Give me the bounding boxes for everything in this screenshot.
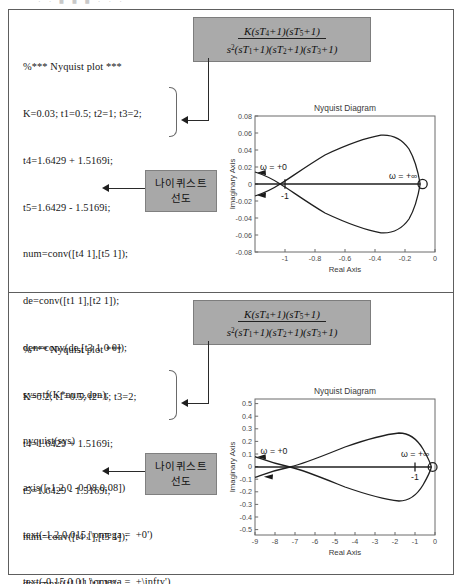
nyquist-plot-bottom: Nyquist Diagram 0.5 — [221, 381, 449, 559]
x-tick-label: -7 — [292, 537, 298, 546]
figure-frame: %*** Nyquist plot *** K=0.03; t1=0.5; t2… — [8, 9, 454, 575]
y-tick-label: -0.08 — [236, 248, 252, 257]
callout-connector-line — [109, 188, 145, 189]
x-tick-label: -1 — [412, 537, 418, 546]
x-tick-label: -6 — [312, 537, 318, 546]
transfer-function-box: K(sT4+1)(sT5+1) s2(sT1+1)(sT2+1)(sT3+1) — [193, 300, 371, 345]
x-tick-label: -1 — [282, 254, 288, 263]
code-group-brace — [169, 370, 177, 420]
code-line: t4=1.6429 + 1.5169i; — [23, 436, 152, 452]
annotation-omega-zero: ω = +0 — [260, 162, 287, 172]
formula-numerator: K(sT4+1)(sT5+1) — [238, 307, 326, 322]
y-tick-label: -0.3 — [240, 500, 252, 509]
code-line: num=conv([t4 1],[t5 1]); — [23, 529, 152, 545]
formula-connector-horizontal — [188, 120, 209, 121]
callout-connector-arrowhead — [102, 184, 109, 192]
x-tick-label: -0.2 — [399, 254, 411, 263]
x-tick-label: -2 — [392, 537, 398, 546]
callout-connector-arrowhead — [102, 467, 109, 475]
panel-bottom: %*** Nyquist plot *** K=0.2; t1=0.5; t2=… — [9, 293, 453, 574]
formula-numerator: K(sT4+1)(sT5+1) — [238, 24, 326, 39]
y-tick-label: -0.5 — [240, 525, 252, 534]
x-tick-label: -0.4 — [369, 254, 381, 263]
transfer-function-box: K(sT4+1)(sT5+1) s2(sT1+1)(sT2+1)(sT3+1) — [193, 17, 371, 62]
x-tick-label: -4 — [352, 537, 358, 546]
x-axis-label: Real Axis — [329, 265, 362, 274]
transfer-function-fraction: K(sT4+1)(sT5+1) s2(sT1+1)(sT2+1)(sT3+1) — [223, 304, 342, 340]
code-block-bottom: %*** Nyquist plot *** K=0.2; t1=0.5; t2=… — [23, 311, 152, 584]
nyquist-plot-top: Nyquist Diagram 0.08 — [221, 98, 449, 276]
page-root: · · ■ ■ ■ · · · %*** Nyquist plot *** K=… — [0, 0, 462, 584]
nyquist-callout-box-top: 나이퀴스트 선도 — [145, 170, 217, 212]
y-tick-label: -0.02 — [236, 197, 252, 206]
y-tick-label: 0.4 — [242, 412, 252, 421]
y-axis-label: Imaginary Axis — [228, 442, 237, 493]
y-tick-label: 0.04 — [238, 146, 252, 155]
annotation-minus-one: -1 — [411, 472, 419, 482]
code-group-brace — [169, 87, 177, 137]
chart-title: Nyquist Diagram — [314, 386, 376, 396]
code-line: t4=1.6429 + 1.5169i; — [23, 153, 170, 169]
curve-negative-omega-top — [255, 184, 420, 233]
y-tick-label: 0.08 — [238, 112, 252, 121]
x-axis-ticks: -9 -8 -7 -6 -5 -4 -3 -2 -1 0 — [252, 532, 437, 546]
annotation-omega-infinity: ω = +∞ — [389, 171, 417, 181]
top-cut-text-strip: · · ■ ■ ■ · · · — [0, 0, 462, 9]
x-axis-ticks: -1 -0.8 -0.6 -0.4 -0.2 0 — [282, 249, 437, 263]
x-axis-label: Real Axis — [329, 548, 362, 557]
y-tick-label: -0.2 — [240, 487, 252, 496]
annotation-minus-one: -1 — [281, 191, 289, 201]
y-tick-label: -0.06 — [236, 231, 252, 240]
y-tick-label: 0.3 — [242, 424, 252, 433]
y-tick-label: 0.1 — [242, 450, 252, 459]
y-tick-label: -0.1 — [240, 475, 252, 484]
x-tick-label: -9 — [252, 537, 258, 546]
nyquist-callout-box-bottom: 나이퀴스트 선도 — [145, 453, 217, 495]
y-tick-label: 0.06 — [238, 129, 252, 138]
x-tick-label: -5 — [332, 537, 338, 546]
x-tick-label: -3 — [372, 537, 378, 546]
code-line: de=conv([t1 1],[t2 1]); — [23, 576, 152, 584]
y-tick-label: 0.2 — [242, 437, 252, 446]
formula-connector-horizontal — [188, 403, 209, 404]
code-line: K=0.03; t1=0.5; t2=1; t3=2; — [23, 106, 170, 122]
code-line: num=conv([t4 1],[t5 1]); — [23, 246, 170, 262]
chart-title: Nyquist Diagram — [314, 103, 376, 113]
code-line: K=0.2; t1=0.5; t2=1; t3=2; — [23, 389, 152, 405]
curve-negative-omega-bottom — [255, 467, 431, 501]
formula-connector-arrowhead — [181, 116, 188, 124]
y-tick-label: 0 — [248, 180, 252, 189]
callout-line-1: 나이퀴스트 — [155, 459, 207, 474]
transfer-function-fraction: K(sT4+1)(sT5+1) s2(sT1+1)(sT2+1)(sT3+1) — [223, 21, 342, 57]
callout-line-2: 선도 — [171, 191, 192, 206]
y-axis-label: Imaginary Axis — [228, 159, 237, 210]
y-tick-label: -0.4 — [240, 513, 252, 522]
annotation-omega-infinity: ω = +∞ — [401, 449, 429, 459]
arrow-lower-left-bottom — [264, 474, 273, 479]
callout-line-2: 선도 — [171, 474, 192, 489]
top-cut-text: · · ■ ■ ■ · · · — [38, 0, 462, 6]
formula-connector-vertical — [208, 58, 209, 120]
callout-line-1: 나이퀴스트 — [155, 176, 207, 191]
formula-connector-vertical — [208, 341, 209, 403]
callout-connector-line — [109, 471, 145, 472]
nyquist-plot-top-svg: Nyquist Diagram 0.08 — [221, 98, 449, 276]
y-tick-label: 0.02 — [238, 163, 252, 172]
x-tick-label: -8 — [272, 537, 278, 546]
annotation-omega-zero: ω = +0 — [261, 446, 288, 456]
panel-top: %*** Nyquist plot *** K=0.03; t1=0.5; t2… — [9, 10, 453, 293]
formula-denominator: s2(sT1+1)(sT2+1)(sT3+1) — [223, 324, 342, 338]
x-tick-label: -0.8 — [309, 254, 321, 263]
x-tick-label: 0 — [433, 537, 437, 546]
y-tick-label: -0.04 — [236, 214, 252, 223]
code-line: %*** Nyquist plot *** — [23, 342, 152, 358]
formula-denominator: s2(sT1+1)(sT2+1)(sT3+1) — [223, 41, 342, 55]
code-line: %*** Nyquist plot *** — [23, 59, 170, 75]
y-tick-label: 0 — [248, 462, 252, 471]
nyquist-plot-bottom-svg: Nyquist Diagram 0.5 — [221, 381, 449, 559]
x-tick-label: -0.6 — [339, 254, 351, 263]
code-line: t5=1.6429 - 1.5169i; — [23, 483, 152, 499]
x-tick-label: 0 — [433, 254, 437, 263]
y-tick-label: 0.5 — [242, 399, 252, 408]
formula-connector-arrowhead — [181, 399, 188, 407]
